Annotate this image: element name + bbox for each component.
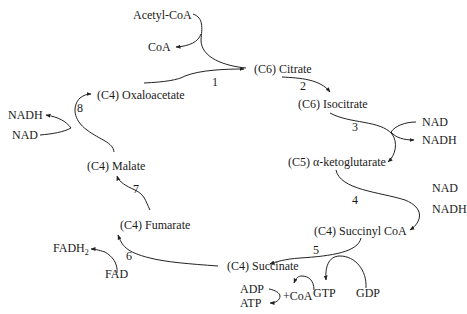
arrow-coa-out bbox=[176, 34, 201, 47]
step-number-2: 2 bbox=[300, 79, 306, 93]
label-isocitrate: (C6) Isocitrate bbox=[298, 97, 368, 111]
label-plus-coa: +CoA bbox=[283, 289, 313, 303]
label-nad-step4: NAD bbox=[432, 181, 458, 195]
arrow-nad-nadh-8 bbox=[40, 115, 71, 135]
fadh-text: FADH bbox=[53, 241, 85, 255]
label-succinyl-coa: (C4) Succinyl CoA bbox=[314, 224, 407, 238]
label-nad-step3: NAD bbox=[422, 115, 448, 129]
step-number-7: 7 bbox=[133, 182, 139, 196]
arrow-succinate-fumarate bbox=[118, 235, 218, 266]
label-atp: ATP bbox=[240, 296, 262, 310]
diagram-svg: Acetyl-CoA CoA (C6) Citrate 1 (C4) Oxalo… bbox=[0, 0, 467, 314]
label-nadh-step4: NADH bbox=[432, 202, 467, 216]
label-fumarate: (C4) Fumarate bbox=[120, 218, 190, 232]
step-number-1: 1 bbox=[212, 75, 218, 89]
step-number-4: 4 bbox=[352, 193, 358, 207]
arrow-akg-succinylcoa bbox=[336, 170, 420, 230]
arrow-gtp-coa bbox=[294, 276, 314, 290]
arrow-gdp-gtp bbox=[326, 256, 366, 288]
label-gtp: GTP bbox=[313, 286, 336, 300]
label-malate: (C4) Malate bbox=[87, 159, 145, 173]
fadh-subscript: 2 bbox=[85, 248, 89, 257]
label-nad-step8: NAD bbox=[12, 128, 38, 142]
label-fadh2: FADH2 bbox=[53, 241, 89, 257]
step-number-8: 8 bbox=[77, 101, 83, 115]
arrow-oaa-to-citrate bbox=[144, 69, 244, 83]
label-citrate: (C6) Citrate bbox=[254, 62, 312, 76]
label-fad: FAD bbox=[105, 267, 128, 281]
arrow-adp-atp bbox=[269, 289, 280, 303]
label-acetyl-coa: Acetyl-CoA bbox=[133, 8, 192, 22]
label-nadh-step3: NADH bbox=[422, 133, 457, 147]
step-number-6: 6 bbox=[126, 249, 132, 263]
arrow-acetylcoa-in bbox=[193, 14, 246, 68]
label-adp: ADP bbox=[240, 282, 264, 296]
label-coa: CoA bbox=[148, 40, 171, 54]
label-nadh-step8: NADH bbox=[8, 108, 43, 122]
step-number-3: 3 bbox=[352, 120, 358, 134]
label-gdp: GDP bbox=[356, 286, 380, 300]
label-succinate: (C4) Succinate bbox=[227, 259, 299, 273]
label-alpha-ketoglutarate: (C5) α-ketoglutarate bbox=[288, 155, 386, 169]
step-number-5: 5 bbox=[313, 243, 319, 257]
arrow-citrate-isocitrate bbox=[282, 77, 330, 92]
arrow-nad-nadh-3 bbox=[391, 122, 416, 140]
krebs-cycle-diagram: Acetyl-CoA CoA (C6) Citrate 1 (C4) Oxalo… bbox=[0, 0, 467, 314]
label-oxaloacetate: (C4) Oxaloacetate bbox=[97, 88, 185, 102]
